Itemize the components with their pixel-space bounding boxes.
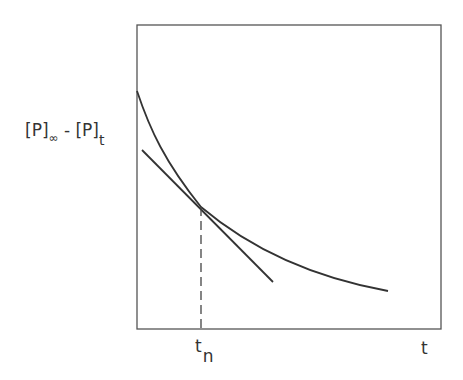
figure-canvas: [P]∞ - [P]t tn t [0, 0, 463, 380]
tn-label: tn [195, 336, 213, 366]
x-axis-label: t [421, 338, 428, 358]
plot-frame [137, 25, 441, 329]
tangent-line [142, 150, 273, 282]
y-axis-label: [P]∞ - [P]t [25, 120, 105, 148]
decay-curve [137, 91, 388, 291]
